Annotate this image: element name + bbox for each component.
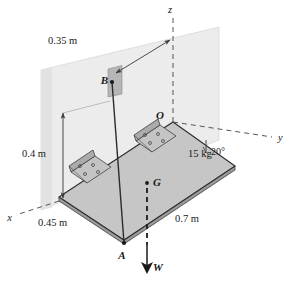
label-point-b: B bbox=[100, 74, 108, 86]
label-angle-20: 20° bbox=[211, 146, 225, 157]
label-axis-z: z bbox=[167, 4, 172, 15]
point-b-marker bbox=[110, 80, 114, 84]
label-0-4m: 0.4 m bbox=[22, 148, 46, 159]
point-a-marker bbox=[122, 241, 126, 245]
label-0-45m: 0.45 m bbox=[38, 217, 67, 228]
label-point-a: A bbox=[117, 249, 125, 261]
statics-figure: 0.35 m 0.4 m 0.45 m 0.7 m 15 kg 20° O B … bbox=[0, 0, 292, 281]
point-g-marker bbox=[145, 181, 149, 185]
label-axis-y: y bbox=[277, 132, 283, 143]
label-point-g: G bbox=[153, 176, 161, 188]
wall-shading bbox=[41, 67, 52, 210]
label-force-w: W bbox=[153, 261, 164, 273]
label-0-7m: 0.7 m bbox=[175, 213, 199, 224]
label-plate-mass: 15 kg bbox=[188, 148, 212, 159]
label-axis-x: x bbox=[6, 212, 12, 223]
label-point-o: O bbox=[156, 109, 164, 121]
label-0-35m: 0.35 m bbox=[48, 35, 77, 46]
